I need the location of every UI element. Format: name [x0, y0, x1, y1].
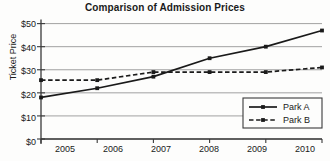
data-point-park-b-2009	[264, 70, 268, 74]
data-point-park-a-2006	[95, 86, 99, 90]
data-point-park-b-2007	[152, 70, 156, 74]
data-series-layer	[39, 29, 324, 100]
data-point-park-b-2005	[39, 78, 43, 82]
data-point-park-a-2008	[208, 56, 212, 60]
series-line-park-a	[41, 31, 322, 98]
legend-label-park-b[interactable]: Park B	[283, 115, 310, 125]
series-line-park-b	[41, 67, 322, 80]
legend-label-park-a[interactable]: Park A	[283, 102, 310, 112]
data-point-park-b-2010	[320, 66, 324, 70]
chart-container: Comparison of Admission Prices Ticket Pr…	[0, 0, 330, 161]
legend-marker-park-a	[261, 105, 265, 109]
legend-marker-park-b	[261, 118, 265, 122]
data-point-park-a-2005	[39, 96, 43, 100]
chart-legend[interactable]: Park APark B	[243, 98, 322, 128]
plot-area: Park APark B	[0, 0, 330, 161]
data-point-park-b-2006	[95, 78, 99, 82]
data-point-park-a-2009	[264, 45, 268, 49]
data-point-park-a-2007	[152, 75, 156, 79]
data-point-park-b-2008	[208, 70, 212, 74]
data-point-park-a-2010	[320, 29, 324, 33]
